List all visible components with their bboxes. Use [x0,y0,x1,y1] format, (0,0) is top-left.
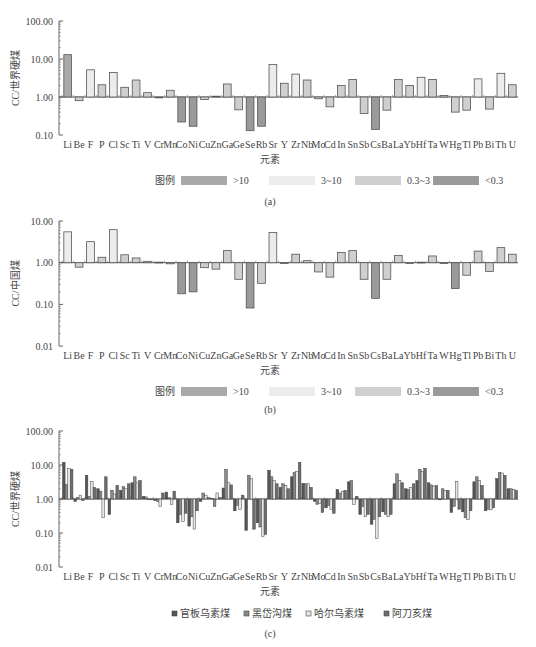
bar-sr-s1 [270,477,273,499]
bar-tl-s1 [464,499,467,518]
bar-y-s2 [284,485,287,499]
legend-label: <0.3 [485,386,503,397]
x-tick-label: Cs [370,571,381,582]
x-tick-label: Hf [416,571,427,582]
x-tick-label: Cl [109,350,119,361]
x-tick-label: Cl [109,139,119,150]
x-tick-label: Ta [428,571,438,582]
bar-mo-s3 [321,499,324,513]
bar-th-s1 [498,473,501,499]
bar-p-s2 [102,499,105,518]
chart-panel-c: 100.0010.001.000.100.01CC/世界硬煤LiBeFPClSc… [9,426,518,641]
x-tick-label: Pb [473,571,484,582]
bar-ni [189,97,197,126]
legend-label: 官板乌素煤 [180,607,230,619]
bar-hg [451,263,459,289]
x-tick-label: Ti [132,571,141,582]
bar-cu-s0 [199,499,202,501]
bar-ni-s0 [188,499,191,526]
bar-cr [155,262,163,263]
legend-label: >10 [233,386,249,397]
bar-cl-s1 [111,490,114,499]
x-tick-label: Zn [210,350,221,361]
bar-pb [474,251,482,263]
bar-u-s3 [515,490,518,499]
bar-sc-s2 [125,489,128,499]
bar-zn-s0 [211,498,214,499]
bar-hg-s2 [455,481,458,499]
bar-sc [121,255,129,263]
bar-ta-s0 [427,483,430,499]
x-tick-label: Sn [347,571,358,582]
bar-li [64,232,72,263]
x-tick-label: Sr [268,139,278,150]
x-tick-label: P [99,571,105,582]
bar-cr-s3 [162,493,165,499]
y-tick-label: 10.00 [31,216,54,227]
bar-ge-s1 [236,499,239,505]
bar-zr-s3 [298,462,301,499]
bar-u-s2 [512,490,515,499]
x-tick-label: W [439,571,449,582]
legend-title: 图例 [155,385,175,397]
bar-sb-s2 [364,499,367,517]
bar-ba-s3 [390,499,393,515]
bar-th-s2 [501,473,504,499]
x-tick-label: Pb [473,350,484,361]
bar-sn [349,79,357,97]
y-tick-label: 1.00 [36,257,54,268]
x-axis-title: 元素 [260,585,280,597]
x-tick-label: P [99,350,105,361]
x-tick-label: Cd [324,350,336,361]
x-tick-label: Hg [449,350,461,361]
x-tick-label: V [144,350,152,361]
bar-ta-s2 [433,486,436,499]
x-tick-label: Bi [485,139,495,150]
bar-ga-s3 [230,485,233,499]
bar-ba-s2 [387,499,390,517]
bar-cs [372,97,380,129]
x-tick-label: La [393,571,404,582]
legend-label: 哈尔乌素煤 [314,607,364,619]
x-tick-label: Y [281,139,288,150]
bar-co-s0 [176,499,179,523]
legend-swatch [433,387,479,396]
legend-label: <0.3 [485,175,503,186]
x-tick-label: W [439,139,449,150]
bar-w [440,95,448,97]
bar-ni [189,263,197,292]
y-tick-label: 0.01 [36,562,54,573]
bar-se [246,263,254,308]
bar-u-s1 [510,489,513,499]
bar-co-s3 [184,499,187,513]
x-tick-label: Hf [416,139,427,150]
bar-hf-s1 [418,469,421,499]
x-tick-label: La [393,139,404,150]
bar-la [394,79,402,97]
bar-zr-s2 [296,471,299,499]
bar-p [98,85,106,97]
x-tick-label: Ti [132,139,141,150]
x-axis-title: 元素 [260,364,280,376]
bar-be [75,97,83,101]
bar-v-s3 [150,499,153,500]
bar-nb-s3 [310,487,313,499]
legend-swatch [181,176,227,185]
figure-caption: (c) [264,628,275,640]
figure-canvas: 100.0010.001.000.10CC/世界硬煤LiBeFPClScTiVC… [0,0,536,647]
x-tick-label: Be [74,350,86,361]
x-tick-label: Ni [188,139,198,150]
bar-ba-s0 [382,499,385,512]
bar-v [144,261,152,262]
bar-sb-s1 [361,499,364,507]
bar-rb-s2 [262,499,265,536]
bar-ge-s3 [241,495,244,499]
bar-p-s3 [105,477,108,499]
bar-be-s0 [74,499,77,501]
bar-tl-s0 [461,499,464,512]
bar-ga [223,84,231,97]
bar-cd-s0 [325,499,328,508]
bar-cu [201,97,209,99]
x-tick-label: F [88,350,94,361]
bar-cu [201,263,209,268]
